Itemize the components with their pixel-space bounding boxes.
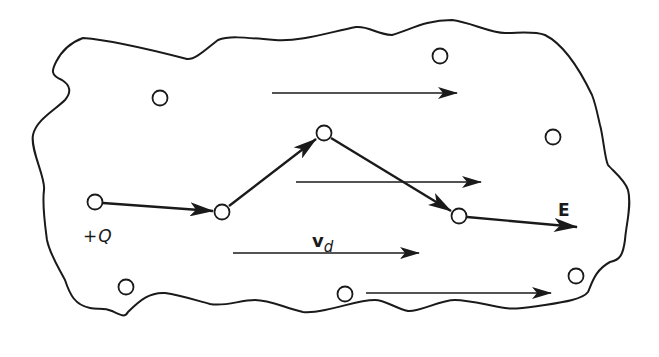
path-segment [331,138,451,211]
ion-circle [338,287,353,302]
field-arrows [233,93,551,293]
charge-label: +Q [83,228,112,245]
drift-velocity-subscript: d [324,238,334,256]
path-segment [103,203,213,211]
charge-symbol: Q [98,226,111,246]
charge-sign: + [83,226,97,246]
ion-circle [153,91,168,106]
path-segment [229,139,316,206]
ion-circle [433,49,448,64]
ion-circle [546,130,561,145]
field-label: E [558,202,570,219]
collision-circle [452,209,467,224]
collision-circle [215,205,230,220]
drift-velocity-symbol: v [312,230,324,251]
field-symbol: E [558,200,570,220]
collision-circle [317,126,332,141]
ion-circle [569,269,584,284]
ions [88,49,584,302]
drift-velocity-label: vd [312,232,333,255]
conductor-boundary [33,20,630,315]
conductor-diagram [0,0,659,357]
charge-start-circle [88,195,103,210]
ion-circle [119,280,134,295]
